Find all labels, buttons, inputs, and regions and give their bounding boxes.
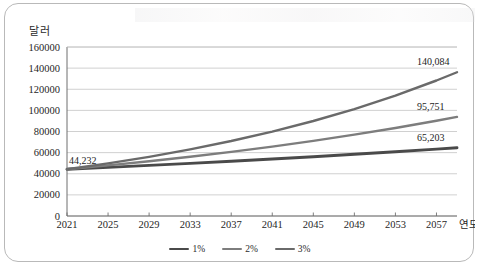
legend-entry-2pct[interactable]: 2% xyxy=(222,244,258,254)
x-tick-labels-group: 2021202520292033203720412045204920532057… xyxy=(57,219,476,230)
data-point-labels-group: 44,23265,20395,751140,084 xyxy=(69,56,450,166)
end-value-label-1pct: 65,203 xyxy=(417,132,445,143)
x-tick-label: 2057 xyxy=(426,219,447,230)
legend-swatch-icon xyxy=(275,248,295,251)
legend-entry-3pct[interactable]: 3% xyxy=(275,244,311,254)
x-tick-label: 2053 xyxy=(385,219,406,230)
x-tick-label: 2049 xyxy=(344,219,365,230)
y-tick-label: 100000 xyxy=(29,105,61,116)
end-value-label-2pct: 95,751 xyxy=(417,101,445,112)
legend-swatch-icon xyxy=(222,248,242,251)
y-tick-label: 20000 xyxy=(34,189,60,200)
y-tick-label: 160000 xyxy=(29,42,61,53)
chart-legend: 1%2%3% xyxy=(5,244,475,254)
line-chart-plot: 0200004000060000800001000001200001400001… xyxy=(5,4,475,263)
start-value-label: 44,232 xyxy=(69,155,97,166)
legend-label: 1% xyxy=(192,244,205,254)
x-tick-label: 2033 xyxy=(180,219,201,230)
chart-card: 달러 0200004000060000800001000001200001400… xyxy=(4,3,474,262)
x-tick-label: 2041 xyxy=(262,219,283,230)
series-line-3pct xyxy=(67,72,457,169)
legend-label: 3% xyxy=(298,244,311,254)
legend-swatch-icon xyxy=(169,248,189,251)
x-tick-label: 2045 xyxy=(303,219,324,230)
x-tick-label: 2021 xyxy=(57,219,78,230)
y-tick-label: 60000 xyxy=(34,147,60,158)
y-tick-label: 140000 xyxy=(29,63,61,74)
series-line-1pct xyxy=(67,148,457,169)
legend-label: 2% xyxy=(245,244,258,254)
end-value-label-3pct: 140,084 xyxy=(417,56,450,67)
x-tick-label: 2025 xyxy=(98,219,119,230)
series-group xyxy=(67,72,457,169)
gridlines-group xyxy=(67,47,457,216)
y-tick-label: 80000 xyxy=(34,126,60,137)
x-tick-label: 2037 xyxy=(221,219,242,230)
y-tick-labels-group: 0200004000060000800001000001200001400001… xyxy=(29,42,61,222)
x-tick-label: 2029 xyxy=(139,219,160,230)
y-tick-label: 40000 xyxy=(34,168,60,179)
y-tick-label: 120000 xyxy=(29,84,61,95)
x-axis-title: 연도 xyxy=(459,219,475,230)
legend-entry-1pct[interactable]: 1% xyxy=(169,244,205,254)
